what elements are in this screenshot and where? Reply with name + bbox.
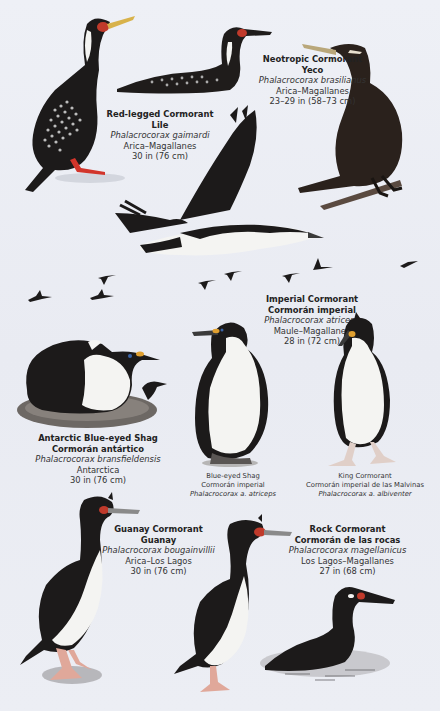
size-text: 30 in (76 cm) (18, 475, 178, 486)
common-name-en: Antarctic Blue-eyed Shag (18, 433, 178, 444)
range-text: Arica–Magallanes (100, 141, 220, 152)
antarctic-blue-eyed-shag-nesting-illustration (12, 330, 172, 430)
rock-cormorant-caption: Rock Cormorant Cormorán de las rocas Pha… (285, 524, 410, 577)
common-name-en: Neotropic Cormorant (250, 54, 375, 65)
common-name-es: Cormorán de las rocas (285, 535, 410, 546)
size-text: 23–29 in (58–73 cm) (250, 96, 375, 107)
common-name-es: Lile (100, 120, 220, 131)
scientific-name: Phalacrocorax bransfieldensis (18, 454, 178, 465)
common-name-en: Rock Cormorant (285, 524, 410, 535)
common-name-es: Cormorán antártico (18, 444, 178, 455)
field-guide-plate: Imperial Cormorant Cormorán imperial Pha… (0, 0, 440, 711)
rock-cormorant-swimming-illustration (255, 578, 405, 683)
scientific-name: Phalacrocorax brasilianus (250, 75, 375, 86)
scientific-name: Phalacrocorax gaimardi (100, 130, 220, 141)
range-text: Antarctica (18, 465, 178, 476)
scientific-name: Phalacrocorax a. atriceps (168, 490, 298, 499)
common-name-es: Cormorán imperial de las Malvinas (290, 481, 440, 490)
common-name-es: Cormorán imperial (168, 481, 298, 490)
scientific-name: Phalacrocorax a. albiventer (290, 490, 440, 499)
range-text: Arica–Magallanes (250, 86, 375, 97)
blue-eyed-shag-standing-illustration (190, 318, 275, 468)
king-cormorant-subcaption: King Cormorant Cormorán imperial de las … (290, 472, 440, 498)
range-text: Los Lagos–Magallanes (285, 556, 410, 567)
common-name-en: Blue-eyed Shag (168, 472, 298, 481)
size-text: 27 in (68 cm) (285, 566, 410, 577)
red-legged-cormorant-caption: Red-legged Cormorant Lile Phalacrocorax … (100, 109, 220, 162)
size-text: 30 in (76 cm) (100, 151, 220, 162)
blue-eyed-shag-subcaption: Blue-eyed Shag Cormorán imperial Phalacr… (168, 472, 298, 498)
common-name-en: Red-legged Cormorant (100, 109, 220, 120)
antarctic-blue-eyed-shag-caption: Antarctic Blue-eyed Shag Cormorán antárt… (18, 433, 178, 486)
common-name-en: King Cormorant (290, 472, 440, 481)
king-cormorant-standing-illustration (308, 310, 418, 470)
guanay-cormorant-illustration (12, 490, 142, 690)
neotropic-cormorant-caption: Neotropic Cormorant Yeco Phalacrocorax b… (250, 54, 375, 107)
common-name-es: Yeco (250, 65, 375, 76)
scientific-name: Phalacrocorax magellanicus (285, 545, 410, 556)
common-name-en: Imperial Cormorant (232, 294, 392, 305)
